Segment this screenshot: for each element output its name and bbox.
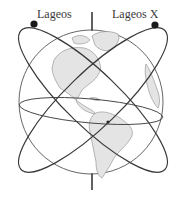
satellite-lageos-icon — [30, 20, 37, 27]
label-lageos: Lageos — [37, 8, 72, 20]
label-lageos-x: Lageos X — [112, 8, 158, 20]
diagram-canvas — [0, 0, 189, 198]
lageos-orbit-diagram: Lageos Lageos X — [0, 0, 189, 198]
satellite-lageos-x-icon — [151, 21, 158, 28]
